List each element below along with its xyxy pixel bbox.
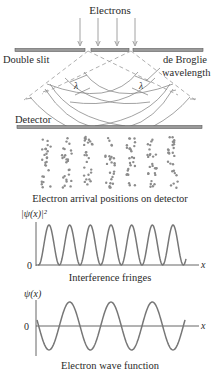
arrival-dot <box>113 162 115 164</box>
wave-y-axis-label: ψ(x) <box>24 288 42 300</box>
arrival-dot <box>84 139 86 141</box>
arrival-dot <box>170 184 172 186</box>
arrival-dot <box>128 148 130 150</box>
arrival-dot <box>151 163 153 165</box>
double-slit-barrier <box>15 49 203 52</box>
arrival-dot <box>149 166 151 168</box>
arrival-dot <box>129 137 131 139</box>
arrival-dot <box>146 154 148 156</box>
arrival-dot <box>46 156 48 158</box>
arrival-dot <box>114 164 116 166</box>
arrival-dot <box>110 161 112 163</box>
arrival-dot <box>42 181 44 183</box>
detector-bar <box>17 126 202 129</box>
arrival-dot <box>90 171 92 173</box>
arrival-dot <box>154 167 156 169</box>
arrival-dot <box>173 147 175 149</box>
arrival-dot <box>133 137 135 139</box>
arrival-dot <box>84 181 86 183</box>
arrival-dot <box>62 176 64 178</box>
slit-barrier-segment <box>91 49 129 52</box>
arrival-dot <box>70 180 72 182</box>
arrival-dot <box>61 154 63 156</box>
arrival-dot <box>83 174 85 176</box>
arrival-dot <box>42 138 44 140</box>
arrival-dot <box>148 148 150 150</box>
arrival-dot <box>69 185 71 187</box>
arrival-dot <box>168 152 170 154</box>
arrival-dot <box>127 168 129 170</box>
arrival-dot <box>134 141 136 143</box>
arrival-dot <box>167 149 169 151</box>
arrival-dot <box>109 182 111 184</box>
wave-function-plot: ψ(x) 0 x Electron wave function <box>24 288 206 371</box>
arrival-dot <box>126 144 128 146</box>
arrival-dot <box>47 150 49 152</box>
arrival-dot <box>41 159 43 161</box>
arrival-dot <box>153 183 155 185</box>
arrival-dot <box>41 175 43 177</box>
arrival-dot <box>47 169 49 171</box>
arrival-dot <box>66 137 68 139</box>
arrival-dot <box>42 186 44 188</box>
lambda-label-right: λ <box>138 81 143 91</box>
fringes-curve <box>38 225 186 265</box>
arrival-dot <box>130 150 132 152</box>
lambda-label-left: λ <box>73 81 78 91</box>
arrival-dot <box>171 136 173 138</box>
arrival-dot <box>83 166 85 168</box>
arrival-dot <box>113 157 115 159</box>
arrival-dot <box>152 155 154 157</box>
arrival-dot <box>129 164 131 166</box>
arrival-dot <box>86 161 88 163</box>
arrival-dot <box>173 143 175 145</box>
arrival-dot <box>46 140 48 142</box>
slit-barrier-segment <box>15 49 85 52</box>
arrival-dot <box>41 148 43 150</box>
arrival-dot <box>149 186 151 188</box>
arrival-dot <box>175 174 177 176</box>
arrival-dot <box>111 144 113 146</box>
arrival-dot <box>47 144 49 146</box>
arrival-dot <box>109 158 111 160</box>
arrival-dot <box>45 161 47 163</box>
electron-arrival-dots <box>41 136 179 189</box>
arrival-dot <box>171 170 173 172</box>
arrival-dot <box>112 183 114 185</box>
arrival-dot <box>169 136 171 138</box>
de-broglie-label-line2: wavelength <box>162 67 211 78</box>
arrival-dot <box>68 173 70 175</box>
arrival-dot <box>108 155 110 157</box>
arrival-dot <box>152 185 154 187</box>
arrival-dot <box>87 174 89 176</box>
arrival-dot <box>173 182 175 184</box>
arrival-dot <box>44 164 46 166</box>
arrival-dot <box>151 139 153 141</box>
arrival-dot <box>43 154 45 156</box>
arrival-dot <box>84 136 86 138</box>
slit-barrier-segment <box>133 49 203 52</box>
interference-fringes-plot: |ψ(x)|² 0 x Interference fringes <box>21 208 206 283</box>
arrival-dot <box>85 151 87 153</box>
arrival-dot <box>129 162 131 164</box>
arrival-dot <box>149 153 151 155</box>
electrons-label: Electrons <box>89 4 131 16</box>
arrival-dot <box>174 172 176 174</box>
de-broglie-label-line1: de Broglie <box>163 54 207 65</box>
arrival-dot <box>105 182 107 184</box>
incoming-electron-arrows <box>78 18 137 46</box>
arrival-dot <box>167 161 169 163</box>
arrival-dot <box>172 152 174 154</box>
fringes-x-axis-label: x <box>200 259 206 270</box>
arrival-dot <box>87 141 89 143</box>
arrival-dot <box>70 152 72 154</box>
arrival-dot <box>126 147 128 149</box>
arrival-dot <box>68 169 70 171</box>
arrival-dot <box>126 173 128 175</box>
arrival-dot <box>83 154 85 156</box>
arrival-dot <box>147 172 149 174</box>
wave-zero-label: 0 <box>24 321 29 332</box>
arrival-dot <box>91 143 93 145</box>
arrival-dot <box>111 176 113 178</box>
arrival-dot <box>70 149 72 151</box>
